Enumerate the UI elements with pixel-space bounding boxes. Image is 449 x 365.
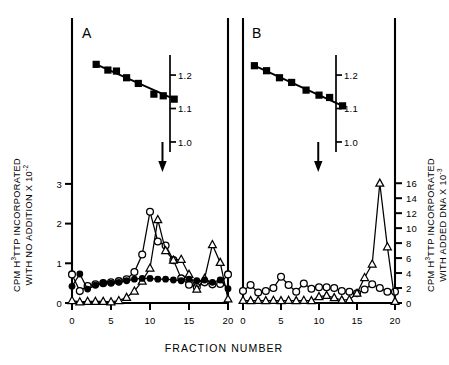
datapoint-A-filled-circle-6 bbox=[115, 279, 122, 286]
datapoint-A-open-circle-0 bbox=[69, 271, 76, 278]
datapoint-B-open-circle-10 bbox=[316, 284, 323, 291]
datapoint-A-filled-square-1 bbox=[104, 66, 111, 73]
datapoint-A-filled-circle-5 bbox=[108, 280, 115, 287]
yticklabel-B-10: 10 bbox=[406, 223, 417, 234]
datapoint-B-open-triangle-4 bbox=[270, 296, 278, 303]
datapoint-B-open-circle-6 bbox=[285, 282, 292, 289]
datapoint-A-filled-square-4 bbox=[135, 80, 142, 87]
datapoint-A-open-triangle-18 bbox=[209, 241, 217, 248]
xticklabel-B-5: 5 bbox=[278, 315, 284, 326]
datapoint-B-open-circle-14 bbox=[346, 288, 353, 295]
datapoint-B-open-circle-19 bbox=[384, 288, 391, 295]
datapoint-B-open-triangle-16 bbox=[361, 273, 369, 280]
svg-text:CPM H3TTP INCORPORATED: CPM H3TTP INCORPORATED bbox=[424, 158, 436, 292]
datapoint-A-open-circle-8 bbox=[131, 269, 138, 276]
density-ticklabel-B-0: 1.0 bbox=[344, 137, 358, 148]
datapoint-A-filled-square-7 bbox=[171, 96, 178, 103]
datapoint-A-open-triangle-14 bbox=[177, 255, 185, 262]
datapoint-B-open-circle-11 bbox=[323, 284, 330, 291]
figure-canvas: A0510152001231.01.11.2B05101520024681012… bbox=[0, 0, 449, 365]
yticklabel-A-2: 2 bbox=[56, 218, 62, 229]
datapoint-B-filled-square-0 bbox=[251, 62, 258, 69]
datapoint-A-filled-circle-14 bbox=[178, 277, 185, 284]
datapoint-B-filled-square-1 bbox=[263, 67, 270, 74]
datapoint-B-open-triangle-0 bbox=[239, 296, 247, 303]
density-ticklabel-A-0: 1.0 bbox=[178, 137, 192, 148]
svg-text:CPM H3TTP INCORPORATED: CPM H3TTP INCORPORATED bbox=[10, 158, 22, 292]
x-axis-title: FRACTION NUMBER bbox=[165, 342, 284, 354]
datapoint-B-filled-square-5 bbox=[315, 92, 322, 99]
datapoint-B-open-circle-8 bbox=[300, 280, 307, 287]
yticklabel-B-4: 4 bbox=[406, 268, 412, 279]
yticklabel-A-0: 0 bbox=[56, 298, 62, 309]
datapoint-A-filled-square-5 bbox=[150, 91, 157, 98]
datapoint-A-filled-circle-0 bbox=[69, 283, 76, 290]
datapoint-B-filled-square-7 bbox=[339, 102, 346, 109]
datapoint-B-open-triangle-2 bbox=[254, 296, 262, 303]
datapoint-B-open-circle-17 bbox=[369, 281, 376, 288]
datapoint-A-filled-circle-13 bbox=[170, 277, 177, 284]
datapoint-A-open-circle-9 bbox=[139, 251, 146, 258]
datapoint-A-filled-square-3 bbox=[123, 74, 130, 81]
datapoint-A-open-circle-1 bbox=[76, 288, 83, 295]
datapoint-B-open-circle-9 bbox=[308, 285, 315, 292]
datapoint-A-filled-circle-12 bbox=[162, 276, 169, 283]
datapoint-A-open-triangle-0 bbox=[68, 297, 76, 304]
xticklabel-A-10: 10 bbox=[144, 315, 155, 326]
xticklabel-A-15: 15 bbox=[183, 315, 194, 326]
xticklabel-B-10: 10 bbox=[313, 315, 324, 326]
datapoint-B-filled-square-2 bbox=[276, 74, 283, 81]
datapoint-B-open-circle-18 bbox=[376, 285, 383, 292]
svg-text:WITH NO ADDITION X 10-2: WITH NO ADDITION X 10-2 bbox=[22, 164, 34, 285]
datapoint-B-open-triangle-20 bbox=[391, 297, 399, 304]
datapoint-B-open-circle-20 bbox=[392, 288, 399, 295]
datapoint-A-filled-circle-11 bbox=[154, 276, 161, 283]
xticklabel-A-0: 0 bbox=[69, 315, 75, 326]
xticklabel-B-20: 20 bbox=[389, 315, 400, 326]
datapoint-B-open-triangle-11 bbox=[323, 291, 331, 298]
datapoint-B-open-circle-2 bbox=[255, 289, 262, 296]
svg-text:WITH ADDED DNA X 10-3: WITH ADDED DNA X 10-3 bbox=[436, 168, 448, 282]
datapoint-B-open-triangle-6 bbox=[285, 296, 293, 303]
datapoint-B-filled-square-6 bbox=[326, 94, 333, 101]
datapoint-B-open-circle-7 bbox=[293, 288, 300, 295]
datapoint-A-open-triangle-11 bbox=[154, 216, 162, 223]
datapoint-A-open-circle-20 bbox=[225, 271, 232, 278]
yticklabel-B-14: 14 bbox=[406, 193, 417, 204]
density-ticklabel-A-1: 1.1 bbox=[178, 103, 192, 114]
datapoint-B-open-circle-5 bbox=[278, 273, 285, 280]
yticklabel-B-0: 0 bbox=[406, 298, 412, 309]
yticklabel-B-16: 16 bbox=[406, 178, 417, 189]
down-arrow-A bbox=[158, 142, 166, 172]
series-A-open-triangle bbox=[68, 216, 232, 305]
datapoint-A-filled-circle-10 bbox=[147, 275, 154, 282]
datapoint-A-filled-circle-7 bbox=[123, 277, 130, 284]
left-axis-title: CPM H3TTP INCORPORATEDWITH NO ADDITION X… bbox=[10, 158, 34, 292]
density-ticklabel-A-2: 1.2 bbox=[178, 70, 192, 81]
datapoint-B-open-triangle-19 bbox=[384, 243, 392, 250]
xticklabel-A-5: 5 bbox=[108, 315, 114, 326]
datapoint-B-open-circle-4 bbox=[270, 285, 277, 292]
datapoint-B-open-circle-16 bbox=[361, 286, 368, 293]
datapoint-A-open-triangle-10 bbox=[146, 264, 154, 271]
datapoint-A-filled-circle-4 bbox=[100, 280, 107, 287]
series-B-filled-square bbox=[251, 62, 346, 109]
panel-label-B: B bbox=[252, 25, 261, 41]
datapoint-B-open-circle-0 bbox=[240, 288, 247, 295]
datapoint-A-open-triangle-20 bbox=[224, 295, 232, 302]
datapoint-B-filled-square-3 bbox=[288, 79, 295, 86]
datapoint-A-filled-square-6 bbox=[160, 92, 167, 99]
xticklabel-B-0: 0 bbox=[240, 315, 246, 326]
figure-root: A0510152001231.01.11.2B05101520024681012… bbox=[0, 0, 449, 365]
datapoint-A-filled-circle-15 bbox=[186, 276, 193, 283]
yticklabel-A-3: 3 bbox=[56, 179, 62, 190]
datapoint-B-open-circle-12 bbox=[331, 285, 338, 292]
datapoint-A-filled-circle-8 bbox=[131, 276, 138, 283]
datapoint-B-filled-square-4 bbox=[302, 87, 309, 94]
yticklabel-B-6: 6 bbox=[406, 253, 412, 264]
yticklabel-A-1: 1 bbox=[56, 258, 62, 269]
down-arrow-B bbox=[314, 142, 322, 172]
datapoint-A-open-triangle-7 bbox=[123, 293, 131, 300]
density-ticklabel-B-2: 1.2 bbox=[344, 70, 358, 81]
datapoint-B-open-circle-1 bbox=[247, 282, 254, 289]
